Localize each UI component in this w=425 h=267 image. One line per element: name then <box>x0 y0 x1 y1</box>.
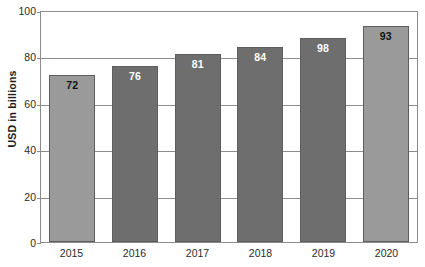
bar-value-label: 84 <box>238 51 282 63</box>
bar-slot: 98 <box>292 12 355 242</box>
x-axis-tick-label-2015: 2015 <box>40 247 103 259</box>
bar-slot: 72 <box>41 12 104 242</box>
bar-slot: 76 <box>104 12 167 242</box>
clipped-chart-title <box>0 0 425 5</box>
y-axis-tick-label: 20 <box>8 191 36 203</box>
bar-value-label: 72 <box>50 79 94 91</box>
y-axis-tick-label: 0 <box>8 237 36 249</box>
x-axis-tick-label-2019: 2019 <box>292 247 355 259</box>
x-axis-tick-label-2018: 2018 <box>229 247 292 259</box>
y-axis-tick-label: 80 <box>8 51 36 63</box>
bar-value-label: 93 <box>364 30 408 42</box>
bar-slot: 93 <box>354 12 417 242</box>
y-axis-tick-labels: 020406080100 <box>8 0 36 267</box>
y-axis-tick-label: 40 <box>8 144 36 156</box>
plot-area: 727681849893 <box>40 11 418 243</box>
y-axis-tick-mark <box>37 243 41 244</box>
bar-2018[interactable]: 84 <box>237 47 283 242</box>
bar-value-label: 76 <box>113 70 157 82</box>
bar-2015[interactable]: 72 <box>49 75 95 242</box>
bar-2016[interactable]: 76 <box>112 66 158 242</box>
bar-chart: USD in billions 020406080100 72768184989… <box>0 0 425 267</box>
bar-value-label: 98 <box>301 42 345 54</box>
bar-2020[interactable]: 93 <box>363 26 409 242</box>
bar-value-label: 81 <box>176 58 220 70</box>
x-axis-tick-label-2017: 2017 <box>166 247 229 259</box>
bar-slot: 84 <box>229 12 292 242</box>
bar-slot: 81 <box>166 12 229 242</box>
x-axis-tick-label-2016: 2016 <box>103 247 166 259</box>
x-axis-tick-label-2020: 2020 <box>355 247 418 259</box>
y-axis-tick-label: 100 <box>8 5 36 17</box>
bar-series: 727681849893 <box>41 12 417 242</box>
x-axis-tick-labels: 201520162017201820192020 <box>40 247 418 259</box>
bar-2017[interactable]: 81 <box>175 54 221 242</box>
bar-2019[interactable]: 98 <box>300 38 346 242</box>
y-axis-tick-label: 60 <box>8 98 36 110</box>
